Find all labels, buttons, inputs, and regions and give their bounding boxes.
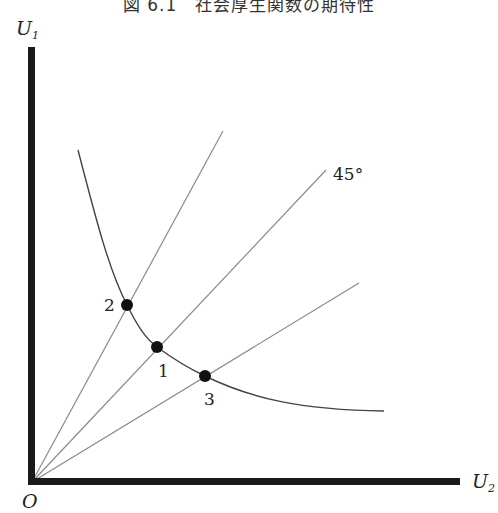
x-axis (28, 478, 460, 485)
social-welfare-curve (78, 150, 384, 411)
point-1 (151, 341, 163, 353)
y-axis (28, 47, 35, 485)
y-axis-label: U1 (16, 17, 39, 42)
point-3-label: 3 (204, 389, 215, 409)
point-2 (121, 299, 133, 311)
angle-label: 45° (333, 164, 363, 184)
origin-label: O (22, 490, 38, 512)
y-axis-label-sub: 1 (32, 29, 39, 42)
point-1-label: 1 (158, 361, 169, 381)
x-axis-label: U2 (472, 470, 495, 495)
diagram-canvas: 2 1 3 45° U1 U2 O (0, 0, 498, 513)
45-degree-ray (32, 170, 326, 482)
point-2-label: 2 (104, 295, 115, 315)
x-axis-label-sub: 2 (487, 482, 495, 495)
lower-ray (32, 283, 359, 482)
point-3 (199, 370, 211, 382)
